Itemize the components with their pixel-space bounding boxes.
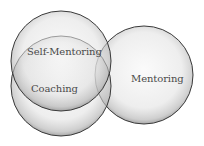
self-mentoring-label: Self-Mentoring bbox=[27, 47, 102, 57]
self-mentoring-circle bbox=[11, 11, 111, 111]
coaching-label: Coaching bbox=[31, 84, 78, 94]
mentoring-label: Mentoring bbox=[131, 74, 184, 84]
